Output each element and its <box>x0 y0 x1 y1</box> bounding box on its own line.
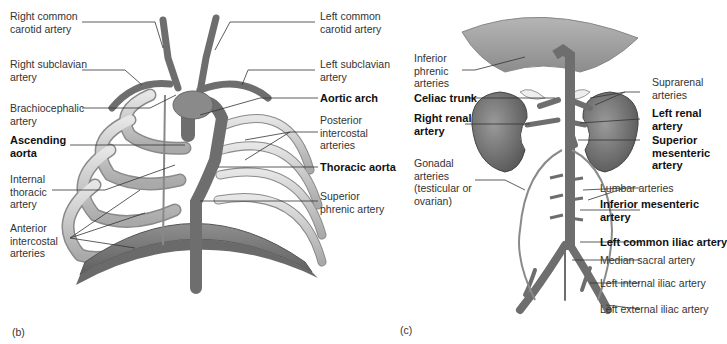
label-superior-mesenteric: Superior mesenteric artery <box>652 134 710 172</box>
label-brachiocephalic: Brachiocephalic artery <box>10 102 84 127</box>
label-left-common-carotid: Left common carotid artery <box>320 10 381 35</box>
thorax-drawing <box>68 18 322 288</box>
label-left-external-iliac: Left external iliac artery <box>600 303 709 316</box>
label-celiac-trunk: Celiac trunk <box>414 92 477 105</box>
label-left-internal-iliac: Left internal iliac artery <box>600 277 706 290</box>
label-left-renal: Left renal artery <box>652 107 702 132</box>
label-ascending-aorta: Ascending aorta <box>10 134 66 159</box>
label-superior-phrenic: Superior phrenic artery <box>320 190 384 215</box>
panel-tag-c: (c) <box>400 324 412 336</box>
panel-tag-b: (b) <box>12 326 25 338</box>
label-left-common-iliac: Left common iliac artery <box>600 236 727 249</box>
label-gonadal: Gonadal arteries (testicular or ovarian) <box>414 157 472 207</box>
label-aortic-arch: Aortic arch <box>320 92 378 105</box>
label-thoracic-aorta: Thoracic aorta <box>320 161 396 174</box>
label-left-subclavian: Left subclavian artery <box>320 58 390 83</box>
label-inferior-mesenteric: Inferior mesenteric artery <box>600 198 699 223</box>
label-suprarenal: Suprarenal arteries <box>652 76 703 101</box>
label-right-renal: Right renal artery <box>414 112 471 137</box>
label-right-common-carotid: Right common carotid artery <box>10 10 78 35</box>
label-posterior-intercostal: Posterior intercostal arteries <box>320 114 368 152</box>
label-right-subclavian: Right subclavian artery <box>10 58 87 83</box>
label-internal-thoracic: Internal thoracic artery <box>10 173 47 211</box>
label-lumbar: Lumbar arteries <box>600 182 674 195</box>
label-inferior-phrenic: Inferior phrenic arteries <box>414 52 449 90</box>
label-anterior-intercostal: Anterior intercostal arteries <box>10 222 58 260</box>
label-median-sacral: Median sacral artery <box>600 254 695 267</box>
